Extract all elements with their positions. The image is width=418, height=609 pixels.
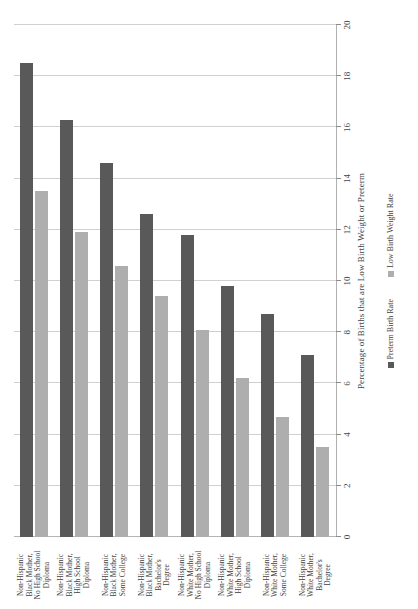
bar-chart-figure: Non-HispanicBlack Mother,No High SchoolD… bbox=[0, 0, 418, 609]
axis-tick bbox=[336, 178, 341, 179]
bar-group bbox=[95, 25, 135, 537]
axis-tick-label: 12 bbox=[342, 225, 352, 234]
category-label: Non-HispanicWhite Mother,No High SchoolD… bbox=[178, 541, 212, 609]
bar-groups bbox=[14, 25, 336, 537]
bar-preterm bbox=[20, 63, 33, 537]
category-label-line: Diploma bbox=[204, 541, 213, 609]
category-label: Non-HispanicBlack Mother,No High SchoolD… bbox=[17, 541, 51, 609]
bar-group bbox=[14, 25, 54, 537]
bar-preterm bbox=[221, 286, 234, 537]
bar-low-birth-weight bbox=[276, 417, 289, 537]
axis-tick-label: 10 bbox=[342, 277, 352, 286]
legend-label: Preterm Birth Rate bbox=[386, 299, 395, 359]
category-label: Non-HispanicBlack Mother,Some College bbox=[102, 541, 128, 609]
axis-tick bbox=[336, 280, 341, 281]
axis-line bbox=[336, 25, 337, 537]
bar-group bbox=[215, 25, 255, 537]
bar-preterm bbox=[301, 355, 314, 537]
bar-low-birth-weight bbox=[155, 296, 168, 537]
category-label-line: Some College bbox=[280, 541, 289, 609]
legend-label: Low Birth Weight Rate bbox=[386, 194, 395, 269]
category-label-line: Diploma bbox=[43, 541, 52, 609]
bar-low-birth-weight bbox=[115, 266, 128, 537]
axis-tick bbox=[336, 126, 341, 127]
axis-tick-label: 2 bbox=[342, 484, 352, 489]
bar-group bbox=[175, 25, 215, 537]
legend-item[interactable]: Low Birth Weight Rate bbox=[386, 194, 395, 278]
legend-swatch-icon bbox=[388, 362, 394, 368]
bar-preterm bbox=[181, 235, 194, 537]
bar-group bbox=[135, 25, 175, 537]
category-label: Non-HispanicWhite Mother,High SchoolDipl… bbox=[218, 541, 252, 609]
bar-low-birth-weight bbox=[196, 330, 209, 537]
axis-tick-label: 18 bbox=[342, 72, 352, 81]
axis-tick-label: 0 bbox=[342, 535, 352, 540]
axis-tick bbox=[336, 536, 341, 537]
axis-tick bbox=[336, 229, 341, 230]
axis-tick-label: 14 bbox=[342, 174, 352, 183]
axis-tick bbox=[336, 382, 341, 383]
axis-tick-label: 20 bbox=[342, 21, 352, 30]
category-label-line: Diploma bbox=[83, 541, 92, 609]
axis-tick-label: 6 bbox=[342, 381, 352, 386]
axis-tick bbox=[336, 75, 341, 76]
axis-tick bbox=[336, 331, 341, 332]
axis-tick bbox=[336, 434, 341, 435]
category-label: Non-HispanicWhite Mother,Some College bbox=[263, 541, 289, 609]
axis-tick-label: 16 bbox=[342, 123, 352, 132]
bar-group bbox=[256, 25, 296, 537]
bar-low-birth-weight bbox=[75, 232, 88, 537]
category-label-line: Diploma bbox=[244, 541, 253, 609]
category-axis-labels: Non-HispanicBlack Mother,No High SchoolD… bbox=[14, 539, 336, 609]
legend-swatch-icon bbox=[388, 271, 394, 277]
chart-legend: Preterm Birth RateLow Birth Weight Rate bbox=[386, 25, 395, 537]
axis-tick bbox=[336, 485, 341, 486]
bar-group bbox=[296, 25, 336, 537]
category-label-line: Degree bbox=[324, 541, 333, 609]
bar-low-birth-weight bbox=[35, 191, 48, 537]
category-label: Non-HispanicBlack Mother,High SchoolDipl… bbox=[57, 541, 91, 609]
bar-preterm bbox=[100, 163, 113, 537]
rotated-figure-frame: Non-HispanicBlack Mother,No High SchoolD… bbox=[0, 0, 418, 609]
bar-preterm bbox=[261, 314, 274, 537]
category-label-line: Degree bbox=[163, 541, 172, 609]
bar-low-birth-weight bbox=[236, 378, 249, 537]
bar-preterm bbox=[140, 214, 153, 537]
axis-tick-label: 8 bbox=[342, 330, 352, 335]
category-label: Non-HispanicWhite Mother,Bachelor'sDegre… bbox=[299, 541, 333, 609]
bar-preterm bbox=[60, 120, 73, 537]
legend-item[interactable]: Preterm Birth Rate bbox=[386, 299, 395, 368]
category-label: Non-HispanicBlack Mother,Bachelor'sDegre… bbox=[138, 541, 172, 609]
bar-group bbox=[54, 25, 94, 537]
bar-low-birth-weight bbox=[316, 447, 329, 537]
axis-tick-label: 4 bbox=[342, 432, 352, 437]
category-label-line: Some College bbox=[119, 541, 128, 609]
axis-title: Percentage of Births that are Low Birth … bbox=[356, 25, 366, 537]
axis-tick bbox=[336, 24, 341, 25]
plot-area bbox=[14, 25, 336, 537]
